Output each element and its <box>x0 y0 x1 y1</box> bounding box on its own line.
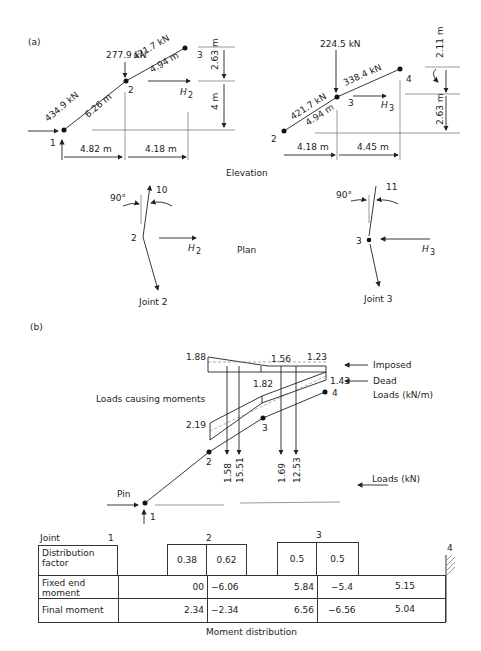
svg-text:90°: 90° <box>336 190 352 200</box>
svg-text:1.56: 1.56 <box>271 354 291 364</box>
svg-text:1: 1 <box>50 138 56 148</box>
svg-text:2: 2 <box>271 134 277 144</box>
elevation-left: (a) 277.9 kN 421.7 kN 4.94 m 434.9 kN 6.… <box>28 33 235 160</box>
row-label-df: Distribution factor <box>38 545 118 575</box>
plan-joint-3: 90° 11 3 H 3 Joint 3 <box>336 182 435 304</box>
svg-text:1.58: 1.58 <box>223 463 233 483</box>
node-2 <box>124 79 129 84</box>
svg-text:2.11 m: 2.11 m <box>435 26 445 58</box>
node-1 <box>62 128 67 133</box>
svg-text:12.53: 12.53 <box>292 457 302 483</box>
svg-text:2: 2 <box>128 85 134 95</box>
svg-text:3: 3 <box>262 423 268 433</box>
node-3 <box>183 46 188 51</box>
part-a-label: (a) <box>28 37 41 47</box>
svg-text:Joint 3: Joint 3 <box>363 294 392 304</box>
svg-text:H: H <box>422 244 429 254</box>
svg-text:3: 3 <box>316 530 322 540</box>
svg-text:3: 3 <box>348 98 354 108</box>
svg-text:2: 2 <box>188 91 193 100</box>
svg-text:4: 4 <box>332 388 338 398</box>
svg-text:H: H <box>381 100 388 110</box>
svg-text:3: 3 <box>356 236 362 246</box>
row-label-fem: Fixed end moment <box>42 578 116 598</box>
table-caption: Moment distribution <box>206 627 297 637</box>
svg-text:4.45 m: 4.45 m <box>357 142 389 152</box>
df-3a: 0.5 <box>277 542 317 575</box>
svg-text:2.63 m: 2.63 m <box>210 38 220 70</box>
df-2a: 0.38 <box>167 544 207 575</box>
svg-text:Pin: Pin <box>117 489 130 499</box>
svg-text:4.18 m: 4.18 m <box>145 144 177 154</box>
svg-text:2.19: 2.19 <box>186 420 206 430</box>
elevation-right: 224.5 kN 338.4 kN 421.7 kN 4.94 m H 3 2 … <box>271 26 460 160</box>
rotation-arrow-icon <box>433 69 438 82</box>
df-3b: 0.5 <box>317 542 359 575</box>
loads-diagram: (b) Loads causing moments 1.88 1.56 1.23… <box>30 322 433 524</box>
svg-text:Dead: Dead <box>373 376 397 386</box>
svg-text:1.88: 1.88 <box>186 352 206 362</box>
svg-text:Loads (kN): Loads (kN) <box>372 474 420 484</box>
svg-text:1: 1 <box>150 512 156 522</box>
svg-text:2: 2 <box>131 233 137 243</box>
svg-text:H: H <box>180 87 187 97</box>
svg-text:434.9 kN: 434.9 kN <box>43 90 81 124</box>
df-2b: 0.62 <box>207 544 247 575</box>
svg-text:2: 2 <box>196 247 201 256</box>
svg-text:H: H <box>188 243 195 253</box>
svg-text:2: 2 <box>206 533 212 543</box>
svg-text:2.63 m: 2.63 m <box>435 93 445 125</box>
row-label-final: Final moment <box>42 605 103 615</box>
plan-joint-2: 90° 10 2 H 2 Joint 2 <box>110 185 201 307</box>
svg-text:10: 10 <box>156 185 168 195</box>
svg-text:3: 3 <box>430 248 435 257</box>
svg-text:3: 3 <box>197 50 203 60</box>
svg-text:1.82: 1.82 <box>253 379 273 389</box>
svg-text:15.51: 15.51 <box>235 457 245 483</box>
svg-text:3: 3 <box>389 104 394 113</box>
svg-text:Loads causing moments: Loads causing moments <box>96 394 206 404</box>
svg-text:2: 2 <box>206 457 212 467</box>
svg-text:4.18 m: 4.18 m <box>297 142 329 152</box>
svg-text:Imposed: Imposed <box>373 360 412 370</box>
svg-text:11: 11 <box>386 182 397 192</box>
svg-text:1.69: 1.69 <box>277 463 287 483</box>
svg-text:Loads (kN/m): Loads (kN/m) <box>373 390 433 400</box>
svg-text:1: 1 <box>108 533 114 543</box>
svg-text:6.26 m: 6.26 m <box>83 92 114 120</box>
fixed-support-icon <box>446 555 455 622</box>
svg-text:224.5 kN: 224.5 kN <box>320 39 361 49</box>
elevation-caption: Elevation <box>226 168 268 178</box>
svg-text:4 m: 4 m <box>210 93 220 110</box>
svg-text:4.82 m: 4.82 m <box>80 144 112 154</box>
svg-text:4.94 m: 4.94 m <box>148 50 180 74</box>
svg-text:Joint 2: Joint 2 <box>138 297 167 307</box>
svg-text:4: 4 <box>406 74 412 84</box>
plan-caption: Plan <box>237 245 256 255</box>
svg-text:338.4 kN: 338.4 kN <box>342 62 383 88</box>
svg-text:90°: 90° <box>110 193 126 203</box>
svg-text:1.23: 1.23 <box>307 352 327 362</box>
svg-text:4: 4 <box>447 543 453 553</box>
svg-text:(b): (b) <box>30 322 43 332</box>
svg-text:Joint: Joint <box>39 533 60 543</box>
